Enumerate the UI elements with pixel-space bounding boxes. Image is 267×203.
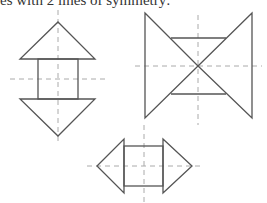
vertical-arrow-shape (10, 10, 108, 145)
bowtie-shape (135, 13, 262, 125)
symmetry-figures (0, 0, 267, 203)
horizontal-arrow-shape (87, 125, 202, 203)
